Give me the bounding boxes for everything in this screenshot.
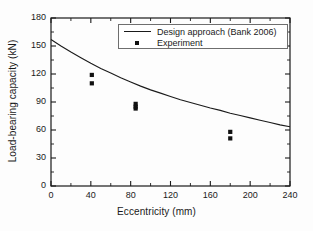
data-point-marker (90, 81, 94, 85)
series-design-approach-line (51, 39, 290, 126)
x-tick-label: 240 (275, 190, 305, 200)
chart-figure: 040801201602002400306090120150180 Eccent… (0, 0, 313, 231)
y-tick-label: 150 (20, 40, 46, 50)
x-tick-label: 40 (76, 190, 106, 200)
data-point-marker (228, 136, 232, 140)
x-tick-label: 160 (195, 190, 225, 200)
chart-legend: Design approach (Bank 2006) Experiment (118, 24, 288, 49)
y-axis-title-wrapper: Load-bearing capacity (kN) (7, 11, 21, 191)
legend-square-marker-icon (124, 37, 152, 49)
x-axis-title: Eccentricity (mm) (0, 206, 313, 217)
legend-label-experiment: Experiment (157, 37, 203, 49)
data-point-marker (90, 73, 94, 77)
legend-entry-experiment: Experiment (119, 37, 287, 49)
data-point-marker (228, 130, 232, 134)
y-tick-label: 180 (20, 12, 46, 22)
x-tick-label: 200 (235, 190, 265, 200)
y-tick-label: 60 (20, 124, 46, 134)
x-tick-label: 120 (156, 190, 186, 200)
y-tick-label: 30 (20, 152, 46, 162)
y-tick-label: 120 (20, 68, 46, 78)
series-experiment-points (90, 73, 233, 141)
x-tick-label: 0 (36, 190, 66, 200)
y-tick-label: 90 (20, 96, 46, 106)
x-tick-label: 80 (116, 190, 146, 200)
data-point-marker (134, 106, 138, 110)
y-tick-label: 0 (20, 180, 46, 190)
y-axis-title: Load-bearing capacity (kN) (7, 11, 18, 191)
